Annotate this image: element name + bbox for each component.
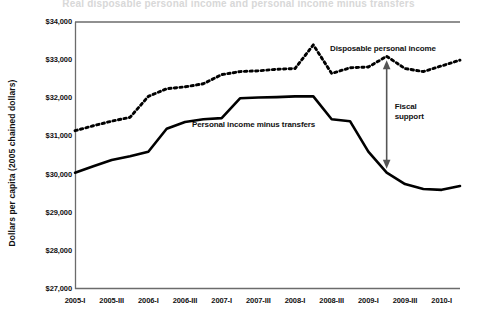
fiscal-support-label: Fiscal support	[395, 102, 424, 122]
chart-container: Real disposable personal income and pers…	[0, 0, 477, 325]
personal-income-minus-transfers-label: Personal income minus transfers	[192, 120, 315, 129]
fiscal-support-label-line2: support	[395, 112, 424, 122]
fiscal-support-arrow	[383, 60, 391, 168]
fiscal-support-label-line1: Fiscal	[395, 102, 424, 112]
disposable-personal-income-label: Disposable personal income	[330, 44, 436, 53]
